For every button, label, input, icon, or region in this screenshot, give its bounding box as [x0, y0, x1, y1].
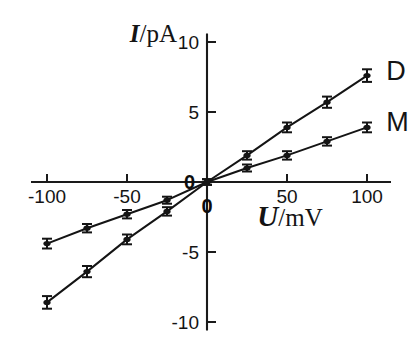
- x-axis-title-symbol: U: [257, 200, 280, 232]
- data-point-M-25: [242, 165, 252, 172]
- y-tick-label--5: -5: [182, 242, 199, 263]
- data-point-D--100: [42, 296, 52, 309]
- iv-curve-figure: -100-500501001050-5-10DMI/pAU/mV: [0, 0, 413, 353]
- series-label-D: D: [386, 56, 406, 86]
- marker-M--75: [83, 226, 90, 231]
- plot-area: -100-500501001050-5-10DMI/pAU/mV: [0, 0, 413, 353]
- y-axis-title: I/pA: [129, 20, 177, 47]
- data-point-M-50: [282, 151, 292, 159]
- marker-D-25: [243, 153, 250, 158]
- x-axis-title: U/mV: [257, 200, 322, 232]
- y-tick-label-10: 10: [178, 32, 199, 53]
- x-tick-label-0: 0: [201, 195, 212, 217]
- marker-M-50: [283, 153, 290, 158]
- marker-M--50: [123, 212, 130, 217]
- marker-D-50: [283, 125, 290, 130]
- marker-D-100: [363, 73, 370, 78]
- marker-D--50: [123, 237, 130, 242]
- data-point-M--75: [82, 224, 92, 232]
- marker-M-100: [363, 125, 370, 130]
- x-tick-label-100: 100: [351, 186, 383, 207]
- marker-D--25: [163, 209, 170, 214]
- x-tick-label--50: -50: [113, 186, 140, 207]
- marker-M-25: [243, 165, 250, 170]
- data-point-M-100: [362, 123, 372, 133]
- data-point-D-75: [322, 97, 332, 108]
- marker-M--25: [163, 198, 170, 203]
- data-point-M--50: [122, 210, 132, 218]
- x-tick-label--100: -100: [28, 186, 66, 207]
- marker-M-0: [203, 179, 210, 184]
- data-point-D-100: [362, 69, 372, 82]
- series-label-M: M: [386, 107, 409, 137]
- marker-D--100: [43, 300, 50, 305]
- marker-M--100: [43, 241, 50, 246]
- data-point-M-0: [202, 179, 212, 185]
- data-point-M--100: [42, 239, 52, 249]
- marker-D--75: [83, 269, 90, 274]
- marker-D-75: [323, 100, 330, 105]
- data-point-M-75: [322, 137, 332, 145]
- y-axis-title-unit: /pA: [140, 20, 178, 47]
- y-tick-label--10: -10: [172, 312, 199, 333]
- y-tick-label-5: 5: [188, 102, 199, 123]
- marker-M-75: [323, 139, 330, 144]
- x-axis-title-unit: /mV: [278, 204, 322, 231]
